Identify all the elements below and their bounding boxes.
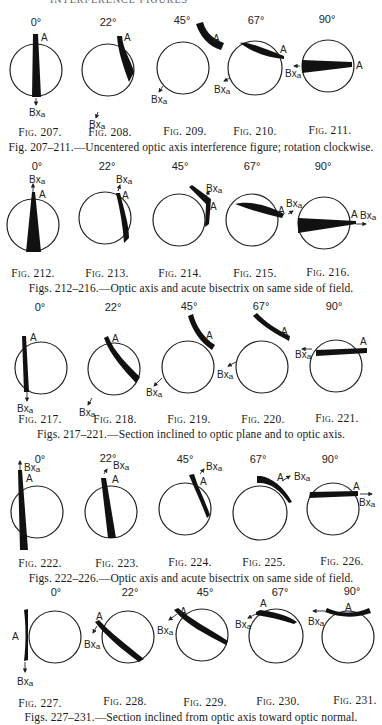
optic-axis-label: A bbox=[278, 205, 285, 216]
optic-axis-label: A bbox=[281, 326, 288, 337]
bisectrix-label: Bxa bbox=[89, 119, 106, 131]
optic-axis-label: A bbox=[260, 598, 267, 609]
bisectrix-label: Bxa bbox=[217, 369, 234, 381]
field-circle bbox=[233, 486, 287, 540]
isogyre bbox=[101, 478, 116, 538]
bisectrix-label: Bxa bbox=[295, 349, 312, 361]
optic-axis-label: A bbox=[353, 481, 360, 492]
bxa-arrow bbox=[93, 626, 97, 633]
bxa-arrow bbox=[104, 469, 107, 474]
optic-axis-label: A bbox=[26, 473, 33, 484]
optic-axis-label: A bbox=[206, 330, 213, 341]
bxa-arrow bbox=[96, 112, 98, 118]
isogyre bbox=[235, 203, 284, 218]
bxa-arrow bbox=[200, 469, 204, 474]
isogyre bbox=[298, 218, 356, 233]
optic-axis-label: A bbox=[112, 333, 119, 344]
bisectrix-label: Bxa bbox=[157, 625, 174, 637]
bisectrix-label: Bxa bbox=[360, 210, 377, 222]
optic-axis-label: A bbox=[12, 631, 19, 642]
bisectrix-label: Bxa bbox=[17, 676, 34, 688]
bxa-arrow bbox=[228, 362, 236, 366]
field-circle bbox=[226, 194, 278, 246]
bxa-arrow bbox=[88, 398, 92, 405]
bxa-arrow bbox=[169, 614, 177, 620]
optic-axis-label: A bbox=[351, 209, 358, 220]
isogyre bbox=[104, 336, 140, 383]
optic-axis-label: A bbox=[356, 60, 363, 71]
optic-axis-label: A bbox=[277, 472, 284, 483]
optic-axis-label: A bbox=[345, 602, 352, 613]
isogyre bbox=[309, 491, 358, 498]
bisectrix-label: Bxa bbox=[285, 68, 302, 80]
optic-axis-label: A bbox=[200, 476, 207, 487]
optic-axis-label: A bbox=[39, 189, 46, 200]
bxa-arrow bbox=[159, 86, 163, 92]
bisectrix-label: Bxa bbox=[359, 497, 376, 509]
bisectrix-label: Bxa bbox=[308, 616, 325, 628]
bxa-arrow bbox=[224, 78, 230, 81]
bisectrix-label: Bxa bbox=[214, 84, 231, 96]
field-circle bbox=[322, 611, 374, 663]
field-circle bbox=[307, 483, 359, 535]
bisectrix-label: Bxa bbox=[29, 107, 46, 119]
optic-axis-label: A bbox=[360, 336, 367, 347]
isogyre bbox=[22, 336, 29, 392]
textbook-page: INTERFERENCE FIGURES 0° 22° 45° 67° 90° … bbox=[0, 0, 382, 725]
optic-axis-label: A bbox=[112, 474, 119, 485]
optic-axis-label: A bbox=[124, 32, 131, 43]
bisectrix-label: Bxa bbox=[146, 387, 163, 399]
interference-figures: A Bxa A Bxa A Bxa A Bxa A Bxa A Bxa A Bx… bbox=[0, 0, 382, 725]
axis-labels: A Bxa A Bxa A Bxa A Bxa A Bxa A Bxa A Bx… bbox=[12, 32, 377, 688]
optic-axis-label: A bbox=[210, 201, 217, 212]
bisectrix-label: Bxa bbox=[116, 174, 133, 186]
optic-axis-label: A bbox=[180, 606, 187, 617]
optic-axis-label: A bbox=[96, 611, 103, 622]
optic-axis-label: A bbox=[280, 44, 287, 55]
bisectrix-label: Bxa bbox=[29, 174, 46, 186]
field-circle bbox=[153, 194, 205, 246]
bxa-arrow bbox=[288, 211, 293, 214]
bisectrix-label: Bxa bbox=[206, 461, 223, 473]
bisectrix-label: Bxa bbox=[24, 462, 41, 474]
isogyre bbox=[256, 610, 297, 624]
isogyre bbox=[302, 60, 352, 73]
field-circle bbox=[310, 340, 362, 392]
bisectrix-label: Bxa bbox=[17, 403, 34, 415]
field-circle bbox=[236, 341, 288, 393]
isogyre bbox=[257, 476, 292, 503]
isogyre bbox=[196, 22, 224, 50]
field-circle bbox=[157, 42, 209, 94]
bisectrix-label: Bxa bbox=[151, 94, 168, 106]
optic-axis-label: A bbox=[122, 190, 129, 201]
bisectrix-label: Bxa bbox=[206, 183, 223, 195]
isogyre bbox=[240, 43, 284, 59]
isogyre bbox=[32, 34, 41, 97]
optic-axis-label: A bbox=[41, 32, 48, 43]
optic-axis-label: A bbox=[30, 332, 37, 343]
bisectrix-label: Bxa bbox=[113, 460, 130, 472]
field-circle bbox=[159, 483, 211, 535]
field-circle bbox=[29, 611, 81, 663]
bxa-arrow bbox=[154, 378, 162, 386]
bisectrix-label: Bxa bbox=[84, 639, 101, 651]
isogyre bbox=[24, 609, 28, 661]
bisectrix-label: Bxa bbox=[79, 407, 96, 419]
bxa-arrow bbox=[118, 185, 120, 191]
isogyre bbox=[26, 192, 41, 252]
field-circle bbox=[162, 341, 214, 393]
bisectrix-label: Bxa bbox=[235, 619, 252, 631]
bisectrix-label: Bxa bbox=[286, 198, 303, 210]
bisectrix-label: Bxa bbox=[294, 471, 311, 483]
optic-axis-label: A bbox=[213, 33, 220, 44]
